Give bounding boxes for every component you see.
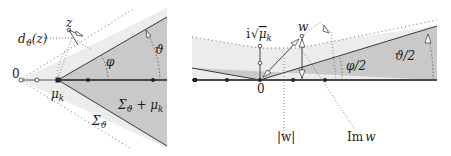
origin-label-right: 0 [257,82,265,96]
w-rotation-arrow-icon [323,25,329,33]
eigen-point-1 [86,78,90,82]
axis-point-c [323,78,327,82]
phi-half-label: φ/2 [346,59,366,73]
im-w-arrowhead-top-icon [299,39,305,47]
imag-mid-point [258,61,262,65]
theta-label: ϑ [155,43,164,57]
left-axis-point [193,78,197,82]
axis-point-b [291,78,295,82]
abs-w-label: |w| [277,130,295,144]
im-w-label: Imw [347,130,376,144]
i-sqrt-mu-point [258,44,262,48]
i-sqrt-mu-label: i√μk [246,27,271,43]
sector-diagram: 0 μk z dϑ(z) φ ϑ Σϑ + μk Σϑ [0,0,451,156]
axis-point-a [225,78,229,82]
sigma-theta-plus-mu-label: Σϑ + μk [117,98,163,114]
origin-label: 0 [12,67,20,81]
open-point [35,78,39,82]
z-label: z [65,16,73,30]
z-arrow-icon [76,31,83,36]
theta-half-label: ϑ/2 [395,49,415,63]
w-label: w [298,20,309,34]
right-panel: 0 i√μk w φ/2 ϑ/2 |w| Imw [192,20,437,144]
eigen-point-2 [151,78,155,82]
phi-label: φ [106,55,115,69]
abs-w-arrowhead-top-icon [291,39,299,46]
d-theta-label: dϑ(z) [18,32,48,48]
left-panel: 0 μk z dϑ(z) φ ϑ Σϑ + μk Σϑ [12,8,167,148]
